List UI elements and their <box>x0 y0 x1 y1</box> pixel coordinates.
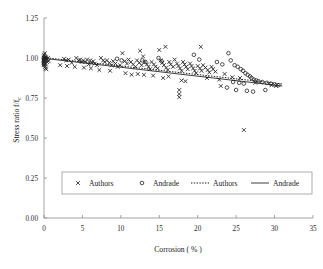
legend-label: Authors <box>89 179 114 188</box>
chart-figure: 0.000.250.500.751.001.25 05101520253035 … <box>0 0 323 269</box>
x-tick-label: 25 <box>233 225 241 233</box>
x-tick-label: 35 <box>309 225 317 233</box>
legend-label: Andrade <box>273 179 300 188</box>
y-tick-label: 0.00 <box>25 215 38 223</box>
x-axis-title: Corrosion ( % ) <box>154 245 202 254</box>
x-tick-label: 30 <box>271 225 279 233</box>
y-tick-label: 0.25 <box>25 175 38 183</box>
scatter-chart: 0.000.250.500.751.001.25 05101520253035 … <box>0 0 323 269</box>
svg-text:Corrosion ( % ): Corrosion ( % ) <box>154 245 202 254</box>
legend-label: Andrade <box>153 179 180 188</box>
y-axis-title: Stress ratio f/fc <box>12 97 22 143</box>
y-tick-label: 1.25 <box>25 15 38 23</box>
x-tick-label: 15 <box>156 225 164 233</box>
x-tick-label: 0 <box>42 225 46 233</box>
x-tick-label: 5 <box>81 225 85 233</box>
y-tick-label: 0.50 <box>25 135 38 143</box>
x-tick-label: 20 <box>194 225 202 233</box>
svg-text:Stress ratio f/fc: Stress ratio f/fc <box>12 97 22 143</box>
y-tick-label: 1.00 <box>25 55 38 63</box>
y-tick-label: 0.75 <box>25 95 38 103</box>
legend-label: Authors <box>213 179 238 188</box>
x-tick-label: 10 <box>117 225 125 233</box>
